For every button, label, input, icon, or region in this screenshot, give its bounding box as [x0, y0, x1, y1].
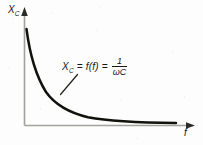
fraction-denominator: ωC	[112, 67, 128, 77]
formula-lhs: XC = f(f) =	[62, 62, 108, 75]
x-axis-label: f	[184, 128, 187, 138]
y-axis-label-subscript: C	[15, 10, 20, 17]
x-axis-arrow-icon	[186, 122, 195, 129]
y-axis-label-text: X	[8, 4, 15, 15]
formula-mid-text: = f(f) =	[74, 61, 108, 72]
fraction-numerator: 1	[115, 57, 124, 66]
y-axis-label: XC	[8, 5, 19, 18]
formula-annotation: XC = f(f) = 1 ωC	[62, 58, 127, 79]
formula-lhs-text: X	[62, 61, 69, 72]
capacitive-reactance-figure: XC f XC = f(f) = 1 ωC	[0, 0, 203, 145]
formula-fraction: 1 ωC	[112, 57, 128, 78]
y-axis-arrow-icon	[21, 7, 28, 16]
